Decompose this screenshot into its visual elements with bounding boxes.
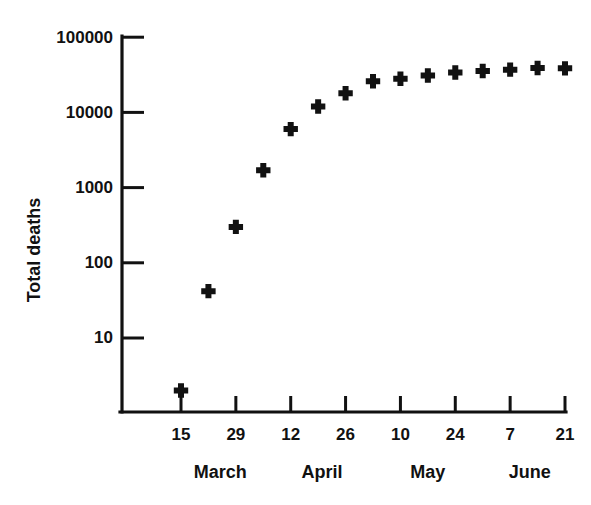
x-tick-label: 29: [226, 425, 245, 444]
y-tick-label: 100000: [56, 28, 113, 47]
data-point-marker: [174, 383, 188, 397]
data-point-marker: [366, 74, 380, 88]
chart-figure: Total deaths 10100100010000100000 152912…: [0, 0, 591, 505]
data-point-marker: [530, 61, 544, 75]
x-axis-month-label: April: [302, 462, 343, 482]
x-tick-label: 10: [391, 425, 410, 444]
x-axis-month-label: May: [410, 462, 445, 482]
y-tick-label: 10000: [66, 103, 113, 122]
data-point-marker: [448, 65, 462, 79]
data-point-marker: [421, 68, 435, 82]
data-point-marker: [229, 220, 243, 234]
y-tick-label: 10: [94, 328, 113, 347]
x-tick-label: 24: [446, 425, 465, 444]
x-axis-month-label: March: [194, 462, 247, 482]
data-point-marker: [558, 61, 572, 75]
total-deaths-log-scatter-chart: Total deaths 10100100010000100000 152912…: [0, 0, 591, 505]
x-tick-label: 26: [336, 425, 355, 444]
x-tick-label: 21: [556, 425, 575, 444]
x-tick-label: 7: [505, 425, 514, 444]
x-axis-month-labels: MarchAprilMayJune: [194, 462, 551, 482]
y-axis-ticks: 10100100010000100000: [56, 28, 144, 348]
data-point-marker: [311, 99, 325, 113]
y-axis-label: Total deaths: [24, 198, 44, 303]
y-tick-label: 100: [85, 253, 113, 272]
y-tick-label: 1000: [75, 178, 113, 197]
data-point-marker: [201, 284, 215, 298]
data-point-marker: [338, 86, 352, 100]
x-tick-label: 12: [281, 425, 300, 444]
data-point-markers: [174, 61, 572, 398]
data-point-marker: [256, 163, 270, 177]
data-point-marker: [476, 64, 490, 78]
x-axis-ticks: 152912261024721: [172, 396, 575, 444]
data-point-marker: [503, 62, 517, 76]
x-axis-month-label: June: [509, 462, 551, 482]
data-point-marker: [393, 72, 407, 86]
x-tick-label: 15: [172, 425, 191, 444]
data-point-marker: [284, 122, 298, 136]
